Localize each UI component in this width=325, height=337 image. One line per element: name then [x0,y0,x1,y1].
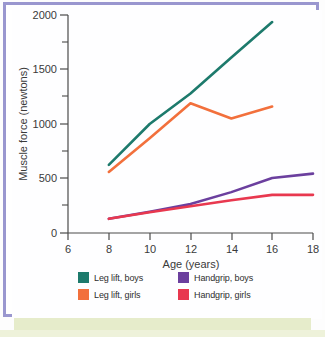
x-label-14: 14 [226,243,238,255]
x-label-12: 12 [185,243,197,255]
legend-label: Handgrip, girls [194,290,251,300]
y-label-1500: 1500 [33,63,57,75]
legend-item-leg-lift-girls[interactable]: Leg lift, girls [78,289,178,300]
legend-item-leg-lift-boys[interactable]: Leg lift, boys [78,272,178,283]
series-group [109,22,313,219]
x-label-8: 8 [106,243,112,255]
x-axis-ticks [68,233,313,240]
y-label-0: 0 [51,227,57,239]
x-label-10: 10 [144,243,156,255]
x-tick-labels: 6 8 10 12 14 16 18 [65,243,319,255]
legend-swatch-icon [178,272,189,283]
legend-label: Handgrip, boys [194,273,253,283]
x-label-6: 6 [65,243,71,255]
y-tick-labels: 2000 1500 1000 500 0 [33,9,57,239]
series-line-handgrip-boys [109,174,313,219]
y-axis-major-ticks [60,15,68,233]
x-label-16: 16 [266,243,278,255]
legend-label: Leg lift, boys [94,273,143,283]
y-label-1000: 1000 [33,118,57,130]
y-label-500: 500 [39,172,57,184]
legend-swatch-icon [78,272,89,283]
legend-swatch-icon [78,289,89,300]
series-line-leg-lift-girls [109,103,272,172]
legend-item-handgrip-boys[interactable]: Handgrip, boys [178,272,298,283]
y-axis-title: Muscle force (newtons) [17,67,29,181]
legend-item-handgrip-girls[interactable]: Handgrip, girls [178,289,298,300]
legend-label: Leg lift, girls [94,290,141,300]
x-label-18: 18 [307,243,319,255]
series-line-leg-lift-boys [109,22,272,165]
figure-container: 2000 1500 1000 500 0 6 8 10 12 14 16 18 … [0,0,325,337]
y-label-2000: 2000 [33,9,57,21]
legend-swatch-icon [178,289,189,300]
page-bottom-strip-secondary [0,330,325,337]
chart-legend: Leg lift, boys Handgrip, boys Leg lift, … [78,269,298,303]
axes-group [68,15,313,233]
